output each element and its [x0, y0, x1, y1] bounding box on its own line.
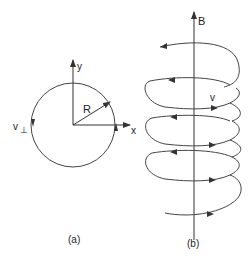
helix-connect-3-4 — [230, 140, 241, 157]
x-axis-label: x — [131, 125, 136, 136]
helix-connect-2-3 — [230, 103, 240, 121]
y-axis-label: y — [77, 61, 82, 72]
arrow-right-icon — [211, 105, 218, 111]
caption-a: (a) — [68, 234, 80, 245]
helix-loop-2-front — [145, 81, 239, 109]
figure: y x R v ⊥ (a) B v — [0, 0, 250, 268]
helix-loop-3-front — [146, 118, 240, 146]
helix-loop-3-back — [152, 115, 230, 121]
caption-b: (b) — [187, 238, 199, 249]
v-perp-label: v — [13, 121, 18, 132]
v-perp-subscript: ⊥ — [20, 125, 28, 135]
helix-loop-2-back — [150, 78, 230, 85]
arrow-left-icon — [170, 149, 177, 155]
panel-a: y x R v ⊥ (a) — [13, 60, 136, 245]
velocity-label: v — [210, 92, 215, 103]
helix-loop-4-back — [152, 150, 232, 157]
panel-b: B v (b) — [145, 12, 241, 249]
b-field-label: B — [198, 15, 205, 27]
arrow-left-icon — [160, 43, 167, 49]
down-arrow-icon — [31, 119, 35, 127]
radius-label: R — [83, 103, 91, 115]
arrow-left-icon — [170, 114, 177, 120]
helix-loop-4-front — [146, 153, 240, 181]
radius-arrow — [73, 102, 110, 125]
arrow-right-icon — [209, 142, 216, 148]
arrow-right-icon — [209, 177, 216, 183]
